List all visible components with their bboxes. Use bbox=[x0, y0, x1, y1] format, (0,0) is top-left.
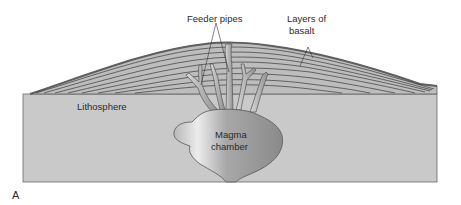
layers-of-basalt-label-line2: basalt bbox=[289, 25, 314, 36]
lithosphere-label: Lithosphere bbox=[77, 101, 127, 112]
basalt-layers bbox=[30, 43, 437, 94]
magma-chamber-label-line2: chamber bbox=[211, 141, 248, 152]
flood-basalt-diagram bbox=[0, 0, 461, 205]
panel-label: A bbox=[12, 190, 19, 201]
feeder-pipes-label: Feeder pipes bbox=[187, 13, 242, 24]
layers-of-basalt-label-line1: Layers of bbox=[287, 13, 326, 24]
magma-chamber-label-line1: Magma bbox=[215, 129, 247, 140]
